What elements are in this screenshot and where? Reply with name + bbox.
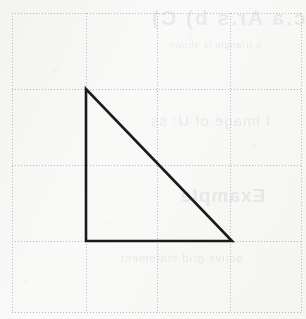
geometry-figure-canvas — [0, 0, 306, 319]
scanned-figure-page: Ic.a Ar.s b) C) a triangle is shown t im… — [0, 0, 306, 319]
